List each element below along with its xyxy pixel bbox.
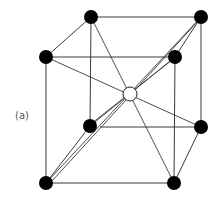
atom-front-top-left — [39, 50, 53, 64]
atom-front-bottom-right — [167, 176, 181, 190]
figure-label: (a) — [15, 110, 29, 121]
atom-front-bottom-left — [39, 176, 53, 190]
atom-back-bottom-right — [194, 120, 208, 134]
atom-back-bottom-left — [83, 119, 97, 133]
atom-body-center — [123, 87, 137, 101]
bcc-diagram: (a) — [0, 0, 221, 204]
atom-back-top-right — [194, 10, 208, 24]
bcc-lattice-drawing — [0, 0, 221, 204]
atom-back-top-left — [84, 10, 98, 24]
atom-front-top-right — [168, 50, 182, 64]
body-diagonals — [46, 17, 201, 183]
